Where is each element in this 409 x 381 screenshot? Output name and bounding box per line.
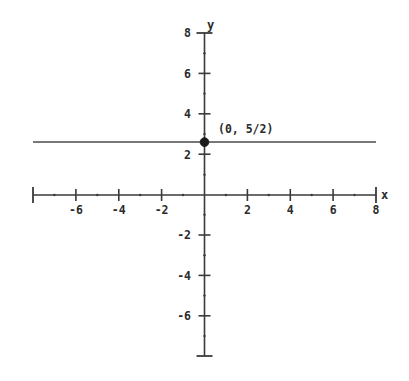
y-label-pos8: 8 [184, 26, 191, 40]
y-axis-name-label: y [207, 18, 214, 32]
y-label-neg2: -2 [177, 228, 191, 242]
y-label-pos2: 2 [184, 148, 191, 162]
x-label-neg2: -2 [155, 203, 169, 217]
graph-figure: -6 -4 -2 2 4 6 8 6 4 2 -2 -4 -6 8 y x (0… [0, 0, 409, 381]
x-label-pos2: 2 [244, 203, 251, 217]
x-label-pos8: 8 [373, 203, 380, 217]
point-annotation-label: (0, 5/2) [218, 122, 273, 136]
coordinate-plane-svg: -6 -4 -2 2 4 6 8 6 4 2 -2 -4 -6 8 y x (0… [0, 0, 409, 381]
x-label-neg4: -4 [112, 203, 126, 217]
x-label-neg6: -6 [69, 203, 83, 217]
x-axis-name-label: x [381, 188, 388, 202]
x-label-pos6: 6 [330, 203, 337, 217]
y-label-neg6: -6 [177, 309, 191, 323]
y-label-neg4: -4 [177, 269, 191, 283]
y-label-pos4: 4 [184, 107, 191, 121]
x-label-pos4: 4 [287, 203, 294, 217]
plotted-point-marker [200, 138, 209, 147]
y-label-pos6: 6 [184, 67, 191, 81]
